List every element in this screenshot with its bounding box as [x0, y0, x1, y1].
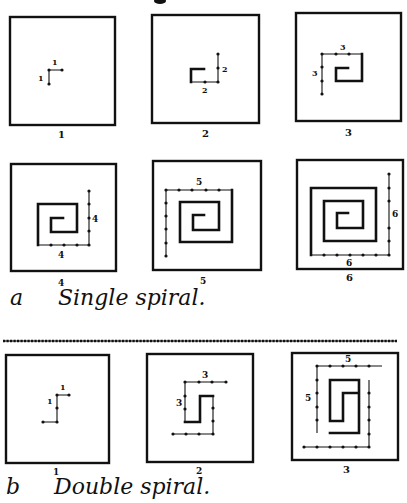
segment-label: 2	[222, 64, 228, 74]
spiral-stroke	[311, 188, 376, 255]
panel-b1: 1 1 1	[6, 355, 109, 477]
section-title: Single spiral.	[58, 285, 205, 310]
segment-label: 3	[340, 42, 346, 52]
spiral-stroke	[185, 396, 213, 422]
section-letter: a	[10, 285, 23, 310]
panel-number: 3	[343, 464, 350, 475]
section-letter: b	[6, 474, 20, 499]
panel-a2: 2 2 2	[152, 15, 259, 139]
segment-label: 1	[60, 382, 66, 392]
spiral-stroke	[336, 54, 362, 81]
segment-label: 1	[52, 57, 58, 67]
panel-b3: 5 5 3	[292, 353, 398, 475]
construction-line	[317, 366, 382, 433]
segment-label: 3	[312, 68, 318, 78]
panel-frame	[297, 160, 403, 269]
panel-frame	[152, 15, 259, 123]
panel-a5: 5 5	[153, 161, 261, 286]
panel-frame	[292, 353, 398, 460]
panel-a4: 4 4 4	[11, 164, 116, 288]
spiral-stroke	[38, 204, 77, 245]
segment-label: 1	[38, 73, 44, 83]
panel-a1: 1 1 1	[10, 17, 115, 140]
segment-label: 6	[346, 258, 352, 268]
panel-number: 2	[202, 128, 209, 139]
spiral-stroke	[180, 190, 232, 242]
panel-frame	[153, 161, 261, 270]
panel-number: 1	[58, 129, 65, 140]
spiral-construction-diagram: 1 1 1 2 2 2 3 3 3	[0, 0, 407, 503]
section-a-single-spiral: 1 1 1 2 2 2 3 3 3	[10, 13, 403, 310]
construction-line	[185, 382, 226, 422]
segment-label: 5	[196, 177, 202, 187]
panel-a3: 3 3 3	[296, 13, 401, 138]
spiral-stroke	[330, 380, 359, 433]
segment-label: 2	[202, 85, 208, 95]
panel-number: 3	[345, 127, 352, 138]
segment-label: 3	[176, 398, 182, 408]
segment-label: 1	[47, 396, 53, 406]
panel-b2: 3 3 2	[147, 354, 253, 476]
segment-label: 4	[92, 214, 98, 224]
segment-label: 3	[202, 370, 208, 380]
construction-line	[49, 70, 62, 84]
construction-line	[322, 54, 362, 94]
segment-label: 5	[345, 354, 351, 364]
section-b-double-spiral: 1 1 1 3 3 2	[6, 353, 398, 499]
spiral-stroke	[191, 69, 204, 82]
panel-number: 6	[346, 272, 353, 283]
segment-label: 6	[392, 209, 398, 219]
construction-line	[166, 190, 232, 256]
segment-label: 5	[305, 393, 311, 403]
segment-label: 4	[58, 250, 64, 260]
section-title: Double spiral.	[53, 474, 210, 499]
panel-a6: 6 6 6	[297, 160, 403, 283]
cropped-glyph-fragment	[154, 0, 166, 4]
